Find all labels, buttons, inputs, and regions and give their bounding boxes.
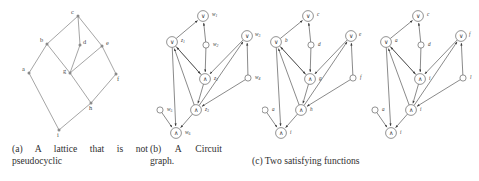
circuit-node-label: w6 <box>185 129 190 136</box>
satisfying-edge <box>420 48 421 72</box>
and-symbol: ∧ <box>389 130 393 136</box>
satisfying-edge <box>419 23 421 42</box>
circuit-node-label: w2 <box>213 41 218 48</box>
input-node <box>245 75 251 81</box>
satisfying-node-label: c <box>317 11 320 17</box>
lattice-node-label: e <box>106 39 109 46</box>
satisfying-node-label: h <box>310 106 313 112</box>
satisfying-edge <box>276 47 280 126</box>
lattice-node-label: f <box>117 75 120 82</box>
circuit-edge <box>162 113 172 128</box>
satisfying-node-label: a <box>272 106 275 112</box>
satisfying-edge <box>280 20 302 38</box>
panel-circuit-graph: ∨w1∨z1w2∨w3∧z2w4w5∧z3∧w6 <box>148 0 270 143</box>
and-symbol: ∧ <box>194 107 198 113</box>
lattice-node-label: a <box>22 65 25 72</box>
circuit-edge <box>176 20 197 38</box>
lattice-edge <box>29 73 59 130</box>
lattice-node-label: c <box>71 8 74 15</box>
satisfying-node-label: f <box>360 74 363 80</box>
or-symbol: ∨ <box>349 33 353 39</box>
panel-satisfying-functions: ∨c∨bd∨e∧gfa∧h∧i∨c∨ad∨f∧ila∧i∧i <box>262 0 479 143</box>
satisfying-svg: ∨c∨bd∨e∧gfa∧h∧i∨c∨ad∨f∧ila∧i∧i <box>262 0 479 143</box>
lattice-edges <box>29 16 116 130</box>
circuit-edge <box>204 23 206 42</box>
and-symbol: ∧ <box>174 130 178 136</box>
and-symbol: ∧ <box>203 76 207 82</box>
satisfying-node-label: f <box>469 31 472 37</box>
lattice-edge <box>29 44 47 73</box>
caption-b: (b) A Circuit graph. <box>150 143 222 167</box>
circuit-edge <box>181 114 193 128</box>
satisfying-edge <box>396 114 408 128</box>
satisfying-node-label: c <box>427 11 430 17</box>
satisfying-edge <box>307 80 350 107</box>
satisfying-node-label: i <box>400 129 402 135</box>
satisfying-edge <box>280 46 306 74</box>
lattice-node-label: d <box>83 38 87 45</box>
circuit-edge <box>205 48 206 72</box>
or-symbol: ∨ <box>459 33 463 39</box>
lattice-edge <box>78 16 102 46</box>
figure-panels: cbdeagfhi ∨w1∨z1w2∨w3∧z2w4w5∧z3∧w6 ∨c∨bd… <box>0 0 479 143</box>
and-symbol: ∧ <box>418 76 422 82</box>
input-node <box>350 75 356 81</box>
circuit-node-label: w1 <box>212 11 217 18</box>
lattice-node-label: i <box>57 131 59 138</box>
circuit-node-label: z2 <box>213 75 218 82</box>
lattice-node <box>46 43 49 46</box>
caption-c: (c) Two satisfying functions <box>252 155 432 167</box>
circuit-node-label: w4 <box>255 74 260 81</box>
lattice-edge <box>91 74 116 103</box>
or-symbol: ∨ <box>416 13 420 19</box>
and-symbol: ∧ <box>299 107 303 113</box>
and-symbol: ∧ <box>308 76 312 82</box>
lattice-node <box>69 72 72 75</box>
satisfying-node-label: i <box>429 75 431 81</box>
satisfying-node-label: i <box>290 129 292 135</box>
caption-a: (a) A lattice that is not pseudocyclic <box>12 143 148 167</box>
input-node <box>262 107 268 113</box>
circuit-node-label: z1 <box>180 37 185 44</box>
satisfying-edge <box>351 43 353 75</box>
lattice-edge <box>47 16 78 44</box>
circuit-edge <box>172 47 175 126</box>
and-symbol: ∧ <box>279 130 283 136</box>
lattice-nodes: cbdeagfhi <box>22 8 120 138</box>
input-node <box>157 107 163 113</box>
satisfying-node-label: e <box>359 31 362 37</box>
or-symbol: ∨ <box>384 39 388 45</box>
satisfying-node-label: d <box>318 41 321 47</box>
satisfying-edge <box>278 49 299 105</box>
circuit-node-label: w5 <box>167 106 172 113</box>
circuit-nodes: ∨w1∨z1w2∨w3∧z2w4w5∧z3∧w6 <box>157 11 261 139</box>
circuit-edge <box>176 46 201 74</box>
circuit-node-label: w3 <box>255 31 260 38</box>
satisfying-edge <box>388 49 409 105</box>
satisfying-edge <box>286 114 298 128</box>
satisfying-edge <box>377 113 387 128</box>
lattice-node <box>101 45 104 48</box>
satisfying-node-label: d <box>428 41 431 47</box>
lattice-edge <box>78 16 80 45</box>
satisfying-edge <box>461 43 463 75</box>
satisfying-node-label: b <box>285 37 288 43</box>
circuit-node-label: z3 <box>204 106 209 113</box>
lattice-svg: cbdeagfhi <box>0 0 152 143</box>
satisfying-edge <box>417 80 460 107</box>
or-symbol: ∨ <box>274 39 278 45</box>
or-symbol: ∨ <box>201 13 205 19</box>
lattice-edge <box>102 46 116 74</box>
input-node <box>203 42 209 48</box>
circuit-edge <box>247 43 248 75</box>
satisfying-edge <box>390 46 416 74</box>
or-symbol: ∨ <box>170 39 174 45</box>
satisfying-edge <box>309 23 311 42</box>
satisfying-edge <box>386 47 390 126</box>
satisfying-edge <box>390 20 412 38</box>
circuit-edge <box>202 80 245 107</box>
satisfying-node-label: a <box>395 37 398 43</box>
panel-lattice: cbdeagfhi <box>0 0 152 143</box>
lattice-edge <box>47 44 70 73</box>
lattice-node-label: b <box>40 36 43 43</box>
